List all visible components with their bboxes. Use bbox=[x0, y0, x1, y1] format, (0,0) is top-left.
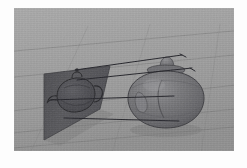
scene-canvas bbox=[14, 8, 234, 151]
figure-root: Orthographic projection of a 3D teapot o… bbox=[0, 0, 247, 168]
grain-overlay bbox=[14, 8, 234, 151]
render-frame bbox=[14, 8, 234, 151]
